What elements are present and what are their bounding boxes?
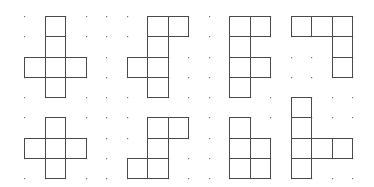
- grid-dot: [106, 36, 107, 37]
- square-cell: [148, 17, 169, 37]
- square-cell: [230, 37, 251, 58]
- grid-dot: [291, 57, 292, 58]
- grid-dot: [188, 77, 189, 78]
- grid-dot: [332, 117, 333, 118]
- square-cell: [25, 139, 46, 159]
- square-cell: [292, 17, 312, 37]
- square-cell: [230, 139, 251, 159]
- grid-dot: [209, 138, 210, 139]
- square-cell: [169, 118, 189, 139]
- grid-dot: [188, 178, 189, 179]
- grid-dot: [127, 117, 128, 118]
- grid-dot: [188, 158, 189, 159]
- square-cell: [333, 17, 353, 37]
- square-cell: [292, 98, 312, 118]
- dot-grid-diagram: [0, 0, 374, 187]
- grid-dot: [270, 97, 271, 98]
- square-cell: [251, 58, 271, 78]
- grid-dot: [209, 117, 210, 118]
- grid-dot: [352, 178, 353, 179]
- square-cell: [46, 58, 66, 78]
- grid-dot: [24, 16, 25, 17]
- figure-bottom-1: [25, 118, 87, 179]
- grid-dot: [188, 97, 189, 98]
- grid-dot: [209, 178, 210, 179]
- figure-top-4: [292, 17, 353, 78]
- figure-bottom-4: [292, 98, 353, 179]
- square-cell: [292, 159, 312, 179]
- grid-dot: [188, 57, 189, 58]
- grid-dot: [209, 158, 210, 159]
- square-cell: [66, 139, 87, 159]
- square-cell: [333, 58, 353, 78]
- grid-dot: [106, 178, 107, 179]
- grid-dot: [209, 77, 210, 78]
- grid-dot: [332, 178, 333, 179]
- grid-dot: [106, 57, 107, 58]
- square-cell: [333, 139, 353, 159]
- grid-dot: [209, 57, 210, 58]
- grid-dot: [106, 16, 107, 17]
- square-cell: [230, 78, 251, 98]
- figure-bottom-2: [128, 118, 189, 179]
- grid-dot: [127, 138, 128, 139]
- grid-dot: [311, 77, 312, 78]
- square-cell: [230, 159, 251, 179]
- grid-dot: [106, 158, 107, 159]
- grid-dot: [24, 97, 25, 98]
- square-cell: [148, 118, 169, 139]
- square-cell: [46, 17, 66, 37]
- square-cell: [230, 17, 251, 37]
- square-cell: [148, 37, 169, 58]
- square-cell: [292, 118, 312, 139]
- square-cell: [251, 139, 271, 159]
- grid-dot: [86, 36, 87, 37]
- grid-dot: [127, 97, 128, 98]
- grid-dot: [86, 117, 87, 118]
- figure-top-3: [230, 17, 271, 98]
- grid-dot: [291, 77, 292, 78]
- square-cell: [66, 58, 87, 78]
- square-cell: [148, 78, 169, 98]
- square-cell: [25, 58, 46, 78]
- grid-dot: [352, 97, 353, 98]
- square-cell: [148, 58, 169, 78]
- square-cell: [46, 159, 66, 179]
- square-cell: [230, 118, 251, 139]
- grid-dot: [106, 138, 107, 139]
- grid-dot: [127, 36, 128, 37]
- grid-dot: [106, 77, 107, 78]
- square-cell: [148, 139, 169, 159]
- square-cell: [333, 37, 353, 58]
- grid-dot: [127, 16, 128, 17]
- grid-dot: [86, 97, 87, 98]
- grid-dot: [352, 117, 353, 118]
- square-cell: [128, 159, 148, 179]
- square-cell: [148, 159, 169, 179]
- grid-dot: [209, 16, 210, 17]
- square-cell: [292, 139, 312, 159]
- figure-bottom-3: [230, 118, 271, 179]
- square-cell: [46, 78, 66, 98]
- grid-dot: [24, 117, 25, 118]
- square-cell: [312, 139, 333, 159]
- figure-top-1: [25, 17, 87, 98]
- square-cell: [128, 58, 148, 78]
- square-cell: [312, 17, 333, 37]
- grid-dot: [332, 97, 333, 98]
- grid-dot: [24, 36, 25, 37]
- grid-dot: [270, 117, 271, 118]
- grid-dot: [86, 178, 87, 179]
- square-cell: [46, 118, 66, 139]
- square-cell: [46, 139, 66, 159]
- grid-dot: [106, 117, 107, 118]
- grid-dot: [209, 97, 210, 98]
- grid-dot: [86, 16, 87, 17]
- square-cell: [251, 17, 271, 37]
- figure-top-2: [128, 17, 189, 98]
- square-cell: [169, 17, 189, 37]
- square-cell: [46, 37, 66, 58]
- grid-dot: [311, 57, 312, 58]
- grid-dot: [24, 178, 25, 179]
- square-cell: [230, 58, 251, 78]
